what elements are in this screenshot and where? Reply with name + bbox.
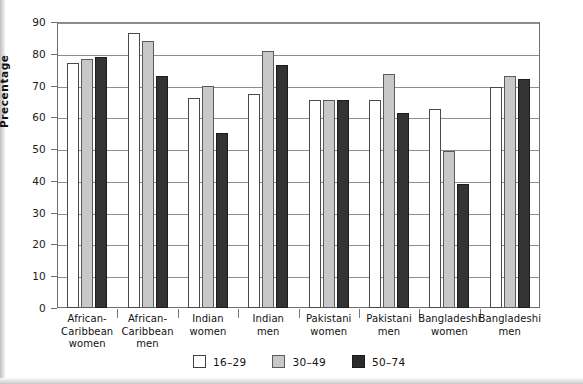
y-axis-title: Precentage [0,54,10,128]
y-tick-label-40: 40 [16,175,46,187]
bar-8-series-1 [490,87,502,308]
bar-8-series-2 [504,76,516,308]
bar-2-series-3 [156,76,168,308]
category-label-line: Bangladeshi [474,313,546,326]
chart-legend: 16–29 30–49 50–74 [193,355,405,368]
bar-1-series-2 [81,59,93,308]
black-square-swatch [352,355,365,368]
bar-5-series-1 [309,100,321,308]
bar-7-series-1 [429,109,441,308]
bar-3-series-2 [202,86,214,308]
bar-series-container [57,22,540,308]
bar-2-series-2 [142,41,154,308]
legend-label: 16–29 [213,356,246,368]
legend-label: 30–49 [292,356,325,368]
y-tick-label-30: 30 [16,207,46,219]
bar-1-series-1 [67,63,79,308]
y-tick-label-60: 60 [16,111,46,123]
y-tick-label-10: 10 [16,270,46,282]
bar-7-series-3 [457,184,469,308]
legend-item-16-29[interactable]: 16–29 [193,355,246,368]
bar-7-series-2 [443,151,455,308]
bar-3-series-1 [188,98,200,308]
legend-item-30-49[interactable]: 30–49 [272,355,325,368]
bar-5-series-3 [337,100,349,308]
category-label-line: men [111,338,183,351]
bar-4-series-1 [248,94,260,309]
white-square-swatch [193,355,206,368]
category-label-line: men [474,326,546,339]
bar-5-series-2 [323,100,335,308]
x-category-label-8: Bangladeshimen [474,313,546,338]
bar-6-series-3 [397,113,409,308]
y-tick-label-20: 20 [16,238,46,250]
bar-6-series-1 [369,100,381,308]
bar-3-series-3 [216,133,228,308]
bar-6-series-2 [383,74,395,308]
y-tick-label-70: 70 [16,80,46,92]
legend-label: 50–74 [372,356,405,368]
y-tick-0 [51,308,57,309]
y-tick-label-80: 80 [16,48,46,60]
y-tick-label-50: 50 [16,143,46,155]
bar-2-series-1 [128,33,140,308]
legend-item-50-74[interactable]: 50–74 [352,355,405,368]
bar-4-series-2 [262,51,274,308]
bar-8-series-3 [518,79,530,308]
y-tick-label-90: 90 [16,16,46,28]
bar-chart-figure: Precentage 0102030405060708090 African-C… [0,0,583,384]
y-tick-label-0: 0 [16,302,46,314]
bar-4-series-3 [276,65,288,308]
bar-1-series-3 [95,57,107,308]
gray-square-swatch [272,355,285,368]
